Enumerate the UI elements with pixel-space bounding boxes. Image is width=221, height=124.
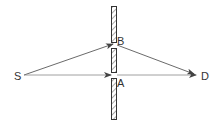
- barrier: [112, 7, 117, 120]
- ray-b-to-d: [117, 45, 194, 74]
- barrier-bottom-segment: [112, 79, 117, 120]
- ray-s-to-b: [24, 44, 113, 75]
- label-slit-a: A: [117, 77, 125, 89]
- barrier-middle-segment: [112, 49, 117, 73]
- label-slit-b: B: [117, 35, 124, 47]
- label-detector: D: [201, 70, 209, 82]
- barrier-top-segment: [112, 7, 117, 43]
- double-slit-diagram: S D B A: [0, 0, 221, 124]
- ray-paths: [24, 44, 196, 75]
- label-source: S: [14, 70, 21, 82]
